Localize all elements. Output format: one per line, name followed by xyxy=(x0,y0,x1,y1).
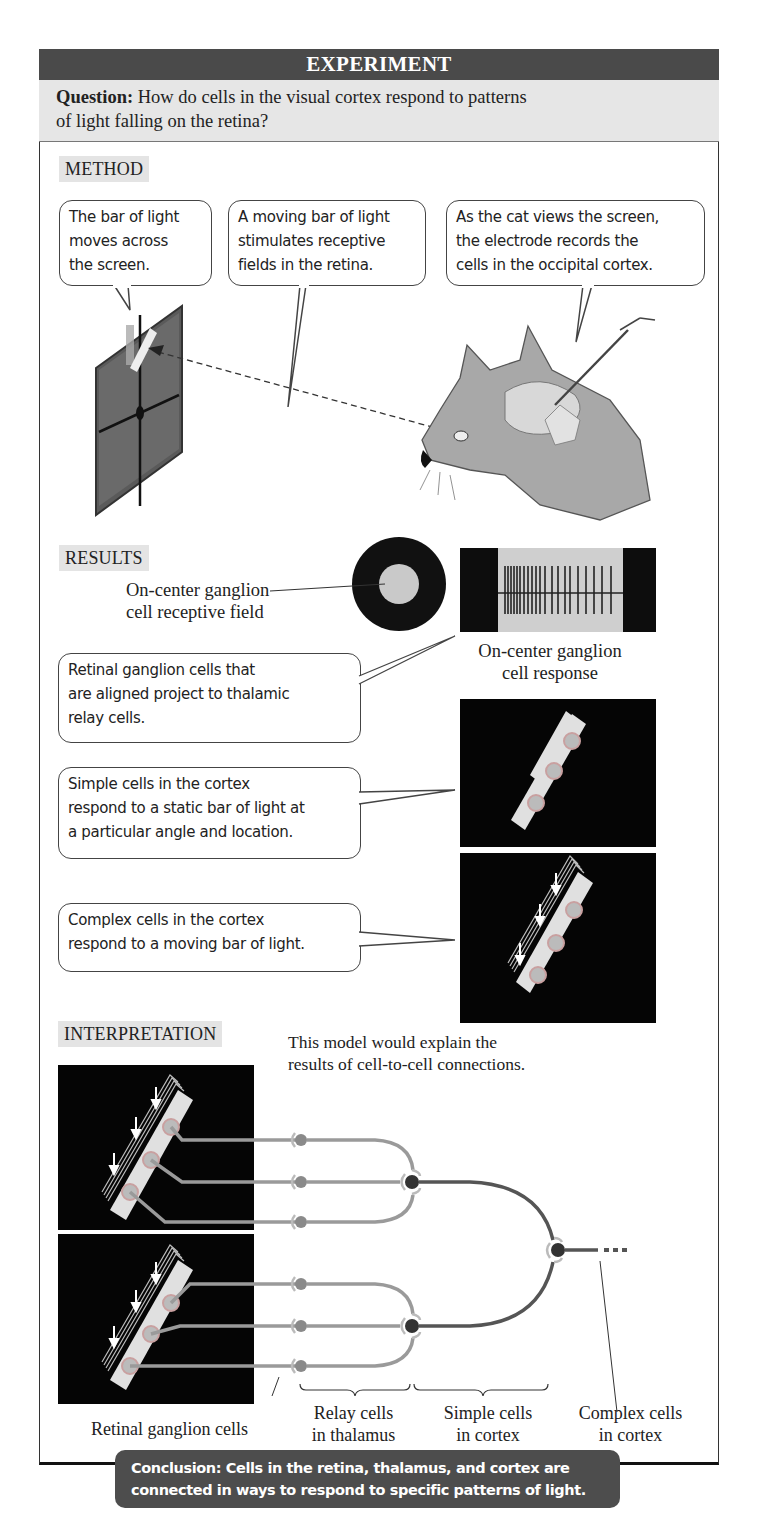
receptive-field-icon xyxy=(352,537,446,631)
conclusion-line: connected in ways to respond to specific… xyxy=(131,1479,620,1501)
simple-cell-panel xyxy=(460,699,656,847)
sight-line xyxy=(158,352,465,436)
relay-synapses xyxy=(292,1133,413,1373)
conclusion-box: Conclusion: Cells in the retina, thalamu… xyxy=(115,1450,620,1508)
braces xyxy=(300,1384,548,1396)
display-screen-icon xyxy=(96,306,182,515)
complex-cell-panel xyxy=(460,853,656,1023)
spike-response-chart xyxy=(460,548,656,632)
leader-line xyxy=(272,1377,279,1396)
simple-cell-nodes xyxy=(402,1170,554,1338)
leader-line xyxy=(600,1261,617,1412)
conclusion-line: Conclusion: Cells in the retina, thalamu… xyxy=(131,1457,620,1479)
interpretation-panel-top xyxy=(58,1065,254,1230)
cat-head-icon xyxy=(420,318,655,520)
diagram-graphics xyxy=(0,0,758,1531)
interpretation-panel-bottom xyxy=(58,1234,254,1404)
complex-cell-node xyxy=(547,1238,627,1262)
